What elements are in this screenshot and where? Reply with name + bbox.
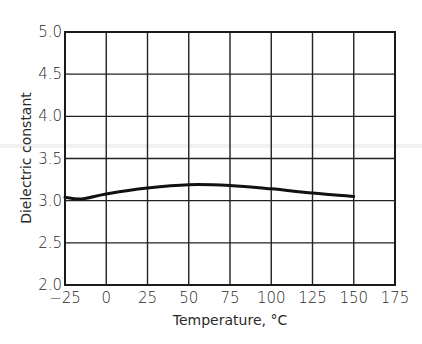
- x-tick-label: 25: [138, 289, 157, 307]
- x-tick-label: 75: [220, 289, 239, 307]
- y-tick-label: 3.0: [38, 192, 62, 210]
- data-curve: [65, 184, 354, 199]
- y-tick-label: 4.5: [38, 65, 62, 83]
- y-tick-label: 2.0: [38, 276, 62, 294]
- x-axis-ticks: −250255075100125150175: [49, 289, 409, 307]
- x-tick-label: 150: [339, 289, 368, 307]
- y-axis-ticks: 2.02.53.03.54.04.55.0: [38, 23, 62, 294]
- y-axis-label: Dielectric constant: [18, 92, 34, 224]
- x-tick-label: 175: [381, 289, 410, 307]
- x-tick-label: 0: [101, 289, 111, 307]
- dielectric-constant-chart: −250255075100125150175 2.02.53.03.54.04.…: [0, 0, 422, 344]
- y-tick-label: 3.5: [38, 150, 62, 168]
- grid-lines: [65, 32, 395, 285]
- y-tick-label: 2.5: [38, 234, 62, 252]
- x-tick-label: 125: [298, 289, 327, 307]
- x-tick-label: 100: [257, 289, 286, 307]
- y-tick-label: 4.0: [38, 107, 62, 125]
- x-axis-label: Temperature, °C: [172, 312, 288, 328]
- x-tick-label: 50: [179, 289, 198, 307]
- y-tick-label: 5.0: [38, 23, 62, 41]
